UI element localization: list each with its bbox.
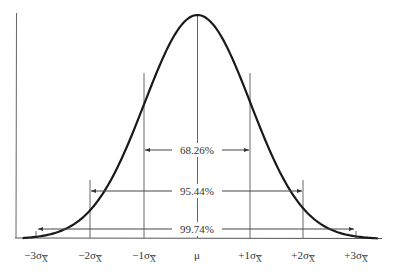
tick-plus2: +2σX	[291, 249, 315, 264]
label-95: 95.44%	[180, 185, 214, 197]
annotation-68: 68.26%	[145, 143, 249, 157]
label-99: 99.74%	[180, 223, 214, 235]
tick-minus1: −1σX	[132, 249, 156, 264]
label-68: 68.26%	[180, 144, 214, 156]
annotation-95: 95.44%	[91, 184, 302, 198]
tick-minus2: −2σX	[78, 249, 102, 264]
normal-distribution-chart: 68.26% 95.44% 99.74% −3σX −2σX −1σX μ +1…	[0, 0, 395, 275]
x-tick-labels: −3σX −2σX −1σX μ +1σX +2σX +3σX	[24, 249, 368, 264]
tick-plus1: +1σX	[238, 249, 262, 264]
bell-curve	[23, 15, 378, 238]
tick-mean: μ	[194, 249, 200, 261]
annotation-99: 99.74%	[38, 222, 354, 236]
tick-plus3: +3σX	[344, 249, 368, 264]
sigma-lines	[36, 15, 356, 238]
x-axis	[15, 238, 382, 239]
tick-minus3: −3σX	[24, 249, 48, 264]
y-axis	[16, 13, 17, 238]
